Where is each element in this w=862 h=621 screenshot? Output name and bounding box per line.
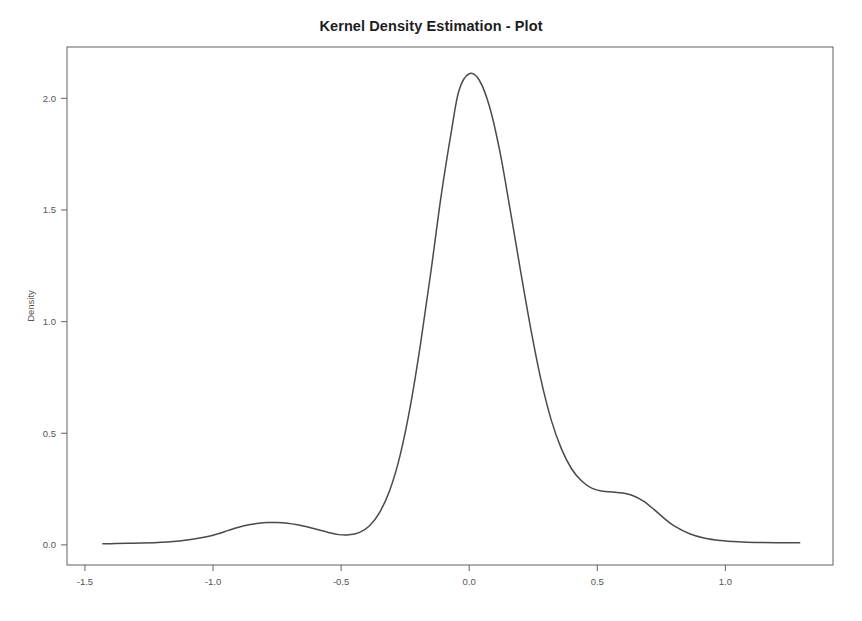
y-axis-title: Density [25,290,36,322]
y-tick-label: 0.5 [43,428,56,439]
x-tick-label: -1.0 [205,576,221,587]
x-tick-label: 1.0 [719,576,732,587]
density-curve-line [103,73,800,543]
x-axis-tick-group: -1.5-1.0-0.50.00.51.0 [77,565,732,587]
kde-density-plot: 0.00.51.01.52.0 -1.5-1.0-0.50.00.51.0 De… [0,0,862,621]
y-tick-label: 2.0 [43,93,56,104]
figure-canvas: Kernel Density Estimation - Plot 0.00.51… [0,0,862,621]
x-tick-label: -1.5 [77,576,93,587]
y-tick-label: 0.0 [43,539,56,550]
plot-frame [67,47,833,565]
y-tick-label: 1.0 [43,316,56,327]
y-tick-label: 1.5 [43,204,56,215]
x-tick-label: 0.5 [591,576,604,587]
x-tick-label: 0.0 [463,576,476,587]
x-tick-label: -0.5 [333,576,349,587]
y-axis-tick-group: 0.00.51.01.52.0 [43,93,67,551]
